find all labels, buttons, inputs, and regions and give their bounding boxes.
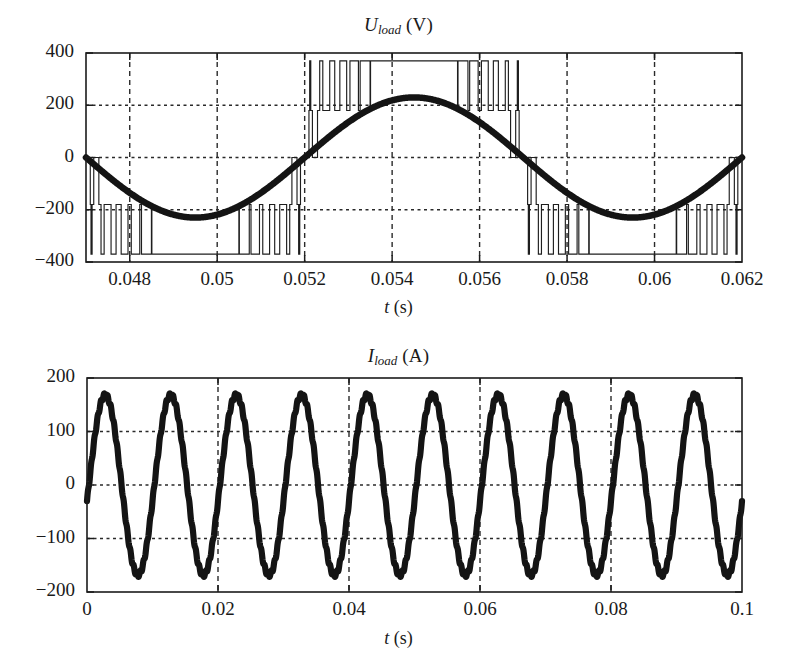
voltage-x-axis-label: t (s) [0, 297, 797, 318]
current-y-tick-1: −100 [0, 526, 75, 548]
chart-panel-voltage: Uload (V) −400−2000200400 0.0480.050.052… [0, 0, 797, 330]
current-x-tick-2: 0.04 [299, 598, 399, 620]
current-x-tick-5: 0.1 [692, 598, 792, 620]
current-y-tick-2: 0 [0, 472, 75, 494]
current-x-axis-label: t (s) [0, 628, 797, 649]
voltage-x-tick-5: 0.058 [517, 268, 617, 290]
current-x-tick-0: 0 [37, 598, 137, 620]
current-trace [87, 393, 742, 576]
current-y-tick-4: 200 [0, 365, 75, 387]
voltage-x-tick-4: 0.056 [430, 268, 530, 290]
current-x-tick-4: 0.08 [561, 598, 661, 620]
chart-panel-current: Iload (A) −200−1000100200 00.020.040.060… [0, 330, 797, 669]
current-y-tick-3: 100 [0, 419, 75, 441]
voltage-y-tick-0: −400 [0, 249, 74, 271]
voltage-x-tick-0: 0.048 [80, 268, 180, 290]
figure-root: Uload (V) −400−2000200400 0.0480.050.052… [0, 0, 797, 669]
voltage-y-tick-2: 0 [0, 145, 74, 167]
voltage-horizontal-gridlines [86, 105, 742, 210]
voltage-x-tick-6: 0.06 [605, 268, 705, 290]
voltage-y-tick-3: 200 [0, 92, 74, 114]
current-x-tick-1: 0.02 [168, 598, 268, 620]
voltage-x-tick-7: 0.062 [692, 268, 792, 290]
voltage-x-tick-2: 0.052 [255, 268, 355, 290]
current-x-tick-3: 0.06 [430, 598, 530, 620]
voltage-x-tick-1: 0.05 [167, 268, 267, 290]
voltage-y-tick-1: −200 [0, 197, 74, 219]
voltage-x-tick-3: 0.054 [342, 268, 442, 290]
voltage-y-tick-4: 400 [0, 40, 74, 62]
